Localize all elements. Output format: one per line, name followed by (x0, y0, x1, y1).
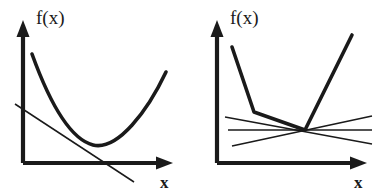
panel-piecewise-linear-convex-function: f(x) x (194, 0, 388, 194)
y-axis-arrow-icon-right (211, 20, 224, 37)
figure-root: f(x) x f(x) x (0, 0, 388, 194)
x-axis-arrow-icon-left (156, 157, 173, 170)
y-axis-label-left: f(x) (36, 7, 64, 29)
convex-parabola-curve (32, 54, 166, 146)
subgradient-line-ascending (232, 116, 372, 146)
panel-smooth-convex-function: f(x) x (0, 0, 194, 194)
x-axis-label-right: x (354, 173, 363, 192)
y-axis-arrow-icon-left (17, 20, 30, 37)
piecewise-linear-function-curve (232, 35, 352, 130)
x-axis-label-left: x (160, 173, 169, 192)
y-axis-label-right: f(x) (230, 7, 258, 29)
tangent-line (15, 104, 134, 182)
x-axis-arrow-icon-right (350, 157, 367, 170)
